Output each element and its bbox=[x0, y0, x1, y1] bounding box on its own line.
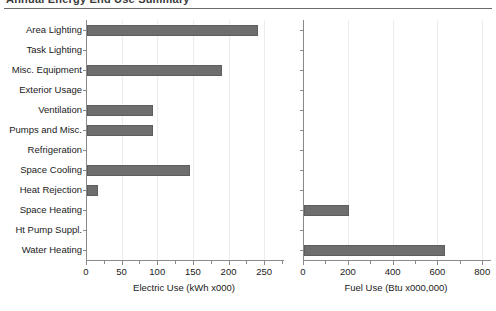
value-tick-minor bbox=[139, 261, 140, 264]
gridline bbox=[393, 20, 394, 260]
category-tick bbox=[83, 150, 87, 151]
category-tick bbox=[300, 90, 304, 91]
bar bbox=[87, 165, 190, 176]
category-label: Exterior Usage bbox=[0, 85, 82, 95]
value-tick-label: 100 bbox=[149, 266, 165, 277]
bar bbox=[87, 185, 98, 196]
value-tick-major bbox=[157, 261, 158, 265]
category-tick bbox=[300, 230, 304, 231]
category-tick bbox=[300, 130, 304, 131]
value-tick-minor bbox=[211, 261, 212, 264]
category-label: Water Heating bbox=[0, 245, 82, 255]
category-label: Space Heating bbox=[0, 205, 82, 215]
gridline bbox=[157, 20, 158, 260]
category-label: Area Lighting bbox=[0, 25, 82, 35]
category-label: Pumps and Misc. bbox=[0, 125, 82, 135]
category-tick bbox=[300, 110, 304, 111]
category-label: Misc. Equipment bbox=[0, 65, 82, 75]
value-tick-minor bbox=[246, 261, 247, 264]
energy-use-figure: Area LightingTask LightingMisc. Equipmen… bbox=[0, 12, 496, 311]
gridline bbox=[348, 20, 349, 260]
value-tick-label: 50 bbox=[116, 266, 127, 277]
value-tick-label: 250 bbox=[256, 266, 272, 277]
category-tick bbox=[300, 30, 304, 31]
category-tick bbox=[300, 150, 304, 151]
category-tick bbox=[300, 70, 304, 71]
value-tick-major bbox=[437, 261, 438, 265]
value-tick-major bbox=[229, 261, 230, 265]
electric-value-axis-line bbox=[86, 260, 284, 261]
value-tick-major bbox=[482, 261, 483, 265]
value-tick-label: 400 bbox=[385, 266, 401, 277]
value-tick-major bbox=[264, 261, 265, 265]
gridline bbox=[437, 20, 438, 260]
category-label: Space Cooling bbox=[0, 165, 82, 175]
category-tick bbox=[83, 50, 87, 51]
value-tick-label: 200 bbox=[221, 266, 237, 277]
category-tick bbox=[300, 50, 304, 51]
category-tick bbox=[300, 170, 304, 171]
value-tick-label: 0 bbox=[83, 266, 88, 277]
gridline bbox=[264, 20, 265, 260]
bar bbox=[87, 125, 153, 136]
category-tick bbox=[83, 250, 87, 251]
value-tick-label: 0 bbox=[300, 266, 305, 277]
bar bbox=[87, 105, 153, 116]
value-tick-major bbox=[122, 261, 123, 265]
value-tick-major bbox=[393, 261, 394, 265]
header-divider bbox=[4, 8, 492, 9]
gridline bbox=[122, 20, 123, 260]
value-tick-major bbox=[86, 261, 87, 265]
value-tick-minor bbox=[175, 261, 176, 264]
bar bbox=[87, 25, 258, 36]
value-tick-major bbox=[303, 261, 304, 265]
category-label: Ventilation bbox=[0, 105, 82, 115]
value-tick-label: 600 bbox=[430, 266, 446, 277]
category-tick bbox=[83, 210, 87, 211]
gridline bbox=[229, 20, 230, 260]
fuel-value-axis-line bbox=[303, 260, 491, 261]
category-label: Heat Rejection bbox=[0, 185, 82, 195]
value-tick-label: 150 bbox=[185, 266, 201, 277]
bar bbox=[304, 245, 445, 256]
value-tick-minor bbox=[460, 261, 461, 264]
category-tick bbox=[300, 190, 304, 191]
value-tick-minor bbox=[325, 261, 326, 264]
value-tick-label: 800 bbox=[474, 266, 490, 277]
electric-plot-area bbox=[86, 20, 282, 260]
category-tick bbox=[83, 90, 87, 91]
bar bbox=[87, 65, 222, 76]
value-tick-minor bbox=[104, 261, 105, 264]
value-tick-minor bbox=[415, 261, 416, 264]
gridline bbox=[482, 20, 483, 260]
fuel-category-axis bbox=[303, 20, 304, 260]
electric-axis-title: Electric Use (kWh x000) bbox=[86, 282, 282, 293]
fuel-plot-area bbox=[303, 20, 489, 260]
category-tick bbox=[83, 230, 87, 231]
category-label: Ht Pump Suppl. bbox=[0, 225, 82, 235]
electric-category-axis bbox=[86, 20, 87, 260]
gridline bbox=[193, 20, 194, 260]
bar bbox=[304, 205, 349, 216]
category-axis-labels: Area LightingTask LightingMisc. Equipmen… bbox=[0, 20, 86, 267]
category-label: Task Lighting bbox=[0, 45, 82, 55]
fuel-use-chart-panel: Fuel Use (Btu x000,000) 0200400600800 bbox=[303, 20, 489, 267]
clipped-page-title: Annual Energy End Use Summary bbox=[6, 0, 190, 5]
value-tick-major bbox=[348, 261, 349, 265]
value-tick-label: 200 bbox=[340, 266, 356, 277]
value-tick-major bbox=[193, 261, 194, 265]
value-tick-minor bbox=[370, 261, 371, 264]
electric-use-chart-panel: Electric Use (kWh x000) 050100150200250 bbox=[86, 20, 282, 267]
value-tick-minor bbox=[282, 261, 283, 264]
category-label: Refrigeration bbox=[0, 145, 82, 155]
fuel-axis-title: Fuel Use (Btu x000,000) bbox=[303, 282, 489, 293]
